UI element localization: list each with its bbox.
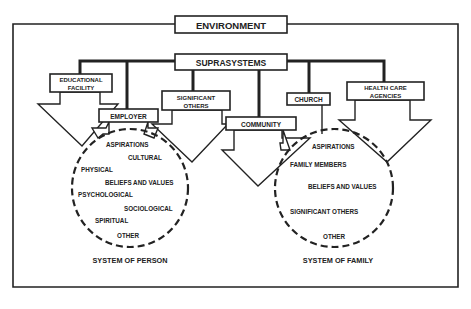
family-item: ASPIRATIONS [312,143,355,150]
system-of-person-items: ASPIRATIONS CULTURAL PHYSICAL BELIEFS AN… [78,141,174,239]
person-item: SPIRITUAL [95,217,128,224]
person-item: BELIEFS AND VALUES [105,179,174,186]
employer-label: EMPLOYER [110,113,147,120]
environment-suprasystems-diagram: ENVIRONMENT SUPRASYSTEMS EDUCATIONAL FAC… [0,0,471,309]
environment-box: ENVIRONMENT [175,16,287,33]
significant-others-box: SIGNIFICANT OTHERS [162,91,230,110]
church-box: CHURCH [287,93,330,105]
system-of-family-title: SYSTEM OF FAMILY [303,256,373,265]
person-item: SOCIOLOGICAL [124,205,173,212]
family-item: FAMILY MEMBERS [290,161,346,168]
system-of-family-items: ASPIRATIONS FAMILY MEMBERS BELIEFS AND V… [290,143,377,240]
family-item: BELIEFS AND VALUES [308,183,377,190]
health-care-agencies-box: HEALTH CARE AGENCIES [347,82,424,100]
person-item: CULTURAL [128,154,162,161]
educational-facility-label-2: FACILITY [68,85,95,91]
system-of-person-title: SYSTEM OF PERSON [92,256,167,265]
church-label: CHURCH [294,96,322,103]
suprasystems-label: SUPRASYSTEMS [196,58,267,68]
employer-box: EMPLOYER [99,109,158,122]
arrow-health-care-agencies [339,100,431,162]
educational-facility-label-1: EDUCATIONAL [59,77,103,83]
significant-others-label-2: OTHERS [183,103,208,109]
family-item: OTHER [323,233,345,240]
suprasystems-box: SUPRASYSTEMS [175,54,287,70]
person-item: PSYCHOLOGICAL [78,191,133,198]
family-item: SIGNIFICANT OTHERS [290,208,358,215]
educational-facility-box: EDUCATIONAL FACILITY [50,74,112,92]
person-item: PHYSICAL [81,166,113,173]
environment-label: ENVIRONMENT [196,20,266,31]
health-care-label-1: HEALTH CARE [364,85,407,91]
community-box: COMMUNITY [226,117,296,130]
significant-others-label-1: SIGNIFICANT [177,95,216,101]
arrow-community [222,130,310,186]
person-item: ASPIRATIONS [106,141,149,148]
arrow-significant-others [152,110,228,162]
community-label: COMMUNITY [241,121,282,128]
person-item: OTHER [117,232,139,239]
health-care-label-2: AGENCIES [370,93,401,99]
connector-health-care [287,61,384,82]
